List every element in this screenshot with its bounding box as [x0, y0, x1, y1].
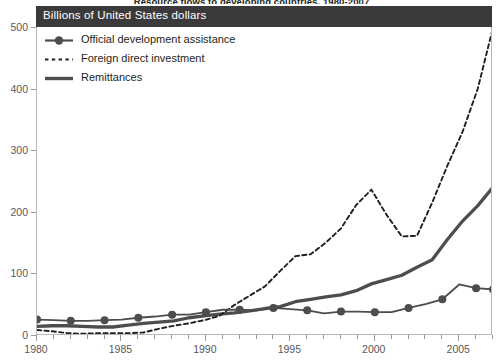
- x-axis-major-tick: [120, 335, 121, 341]
- x-axis-tick-label: 1995: [278, 343, 301, 355]
- data-point-oda: [438, 295, 446, 303]
- x-axis-minor-tick: [188, 335, 189, 339]
- data-point-oda: [269, 304, 277, 312]
- x-axis-tick-label: 2005: [447, 343, 470, 355]
- y-axis-tick: [31, 212, 36, 213]
- data-point-oda: [405, 304, 413, 312]
- data-point-oda: [37, 316, 41, 324]
- series-line-remittances: [37, 187, 492, 327]
- x-axis-minor-tick: [104, 335, 105, 339]
- x-axis-major-tick: [36, 335, 37, 341]
- x-axis-minor-tick: [70, 335, 71, 339]
- x-axis-minor-tick: [87, 335, 88, 339]
- x-axis-minor-tick: [53, 335, 54, 339]
- x-axis-minor-tick: [306, 335, 307, 339]
- x-axis-minor-tick: [272, 335, 273, 339]
- x-axis-minor-tick: [357, 335, 358, 339]
- x-axis-tick-label: 1985: [109, 343, 132, 355]
- y-axis-tick-label: 200: [0, 206, 28, 218]
- series-line-oda: [37, 284, 492, 320]
- y-axis-tick-label: 400: [0, 83, 28, 95]
- x-axis-minor-tick: [154, 335, 155, 339]
- y-axis-tick: [31, 150, 36, 151]
- data-point-oda: [168, 311, 176, 319]
- x-axis-minor-tick: [441, 335, 442, 339]
- y-axis-tick-label: 0: [0, 329, 28, 341]
- x-axis-minor-tick: [492, 335, 493, 339]
- solid-line-key-icon: [44, 70, 74, 87]
- data-point-oda: [489, 285, 492, 293]
- x-axis-minor-tick: [408, 335, 409, 339]
- y-axis-tick-label: 300: [0, 144, 28, 156]
- x-axis-minor-tick: [239, 335, 240, 339]
- line-marker-key-icon: [44, 32, 74, 49]
- x-axis-major-tick: [205, 335, 206, 341]
- x-axis-minor-tick: [256, 335, 257, 339]
- axis-title-label: Billions of United States dollars: [43, 9, 206, 21]
- x-axis-major-tick: [289, 335, 290, 341]
- legend-label-fdi: Foreign direct investment: [81, 52, 205, 64]
- x-axis-minor-tick: [171, 335, 172, 339]
- x-axis-minor-tick: [222, 335, 223, 339]
- data-point-oda: [303, 306, 311, 314]
- x-axis-major-tick: [458, 335, 459, 341]
- data-point-oda: [371, 308, 379, 316]
- y-axis-tick-label: 500: [0, 21, 28, 33]
- data-point-oda: [101, 316, 109, 324]
- x-axis-minor-tick: [475, 335, 476, 339]
- data-point-oda: [236, 306, 244, 314]
- data-point-oda: [472, 284, 480, 292]
- legend-label-oda: Official development assistance: [81, 33, 236, 45]
- axis-title-band: Billions of United States dollars: [36, 6, 492, 27]
- x-axis-minor-tick: [424, 335, 425, 339]
- x-axis-tick-label: 1980: [24, 343, 47, 355]
- y-axis-tick: [31, 273, 36, 274]
- x-axis-major-tick: [374, 335, 375, 341]
- x-axis-tick-label: 1990: [193, 343, 216, 355]
- y-axis-tick-label: 100: [0, 267, 28, 279]
- data-point-oda: [134, 314, 142, 322]
- data-point-oda: [67, 317, 75, 325]
- x-axis-minor-tick: [391, 335, 392, 339]
- y-axis-tick: [31, 89, 36, 90]
- x-axis-minor-tick: [340, 335, 341, 339]
- chart-supertitle: Resource flows to developing countries, …: [0, 0, 503, 4]
- x-axis-minor-tick: [323, 335, 324, 339]
- data-point-oda: [202, 308, 210, 316]
- legend-label-remittances: Remittances: [81, 71, 142, 83]
- x-axis-minor-tick: [137, 335, 138, 339]
- chart-root: Resource flows to developing countries, …: [0, 0, 503, 360]
- data-point-oda: [337, 308, 345, 316]
- dashed-line-key-icon: [44, 51, 74, 68]
- y-axis-tick: [31, 27, 36, 28]
- x-axis-tick-label: 2000: [362, 343, 385, 355]
